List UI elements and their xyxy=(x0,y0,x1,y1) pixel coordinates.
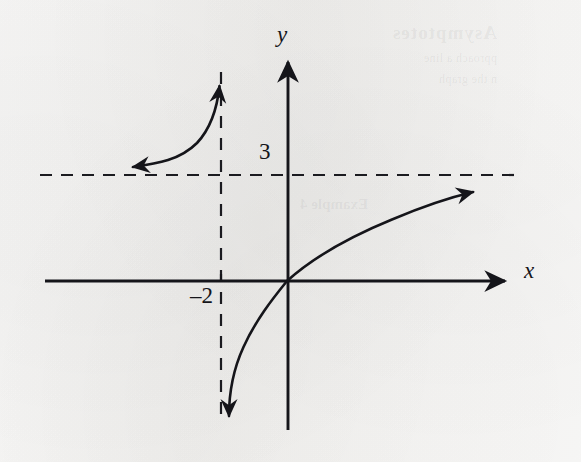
graph-plot-area xyxy=(0,0,581,462)
x-axis-label: x xyxy=(524,258,534,284)
curve-lower-right-branch xyxy=(229,192,473,416)
y-axis-label: y xyxy=(277,22,287,48)
y-tick-label-3: 3 xyxy=(259,139,271,165)
curve-upper-left-branch xyxy=(133,86,220,167)
x-tick-label-minus-2: –2 xyxy=(190,283,213,309)
graph-figure: Asymptotes pproach a line n the graph Ex… xyxy=(0,0,581,462)
